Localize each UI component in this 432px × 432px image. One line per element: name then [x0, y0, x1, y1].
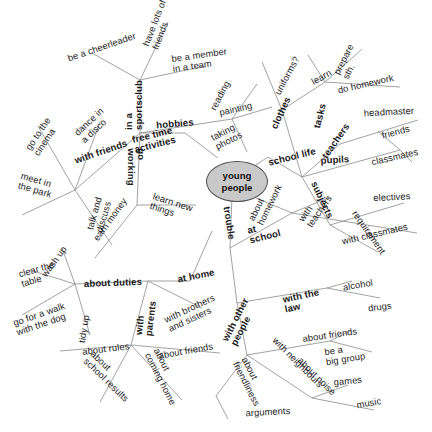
mindmap-edge	[230, 248, 237, 303]
node-label-electives[interactable]: electives	[373, 192, 411, 204]
node-label-line: working	[126, 148, 136, 185]
node-label-line: go	[136, 148, 146, 185]
node-label-go-working[interactable]: goworking	[126, 148, 146, 185]
center-node-line2: people	[222, 182, 253, 193]
mindmap-edge	[216, 396, 228, 419]
node-label-line: pupils	[320, 154, 349, 166]
node-label-line: about duties	[84, 277, 143, 289]
node-label-with-parents[interactable]: withparents	[134, 299, 158, 337]
node-label-about-duties[interactable]: about duties	[84, 277, 143, 289]
mindmap-edge	[92, 53, 140, 80]
mindmap-canvas: young people free timeactivitiesin aspor…	[0, 0, 432, 432]
node-label-in-a-sportsclub[interactable]: in asportsclub	[124, 80, 144, 130]
node-label-line: electives	[373, 192, 411, 204]
node-label-line: sportsclub	[134, 80, 144, 130]
center-node-line1: young	[223, 170, 252, 181]
node-label-pupils[interactable]: pupils	[320, 154, 349, 166]
